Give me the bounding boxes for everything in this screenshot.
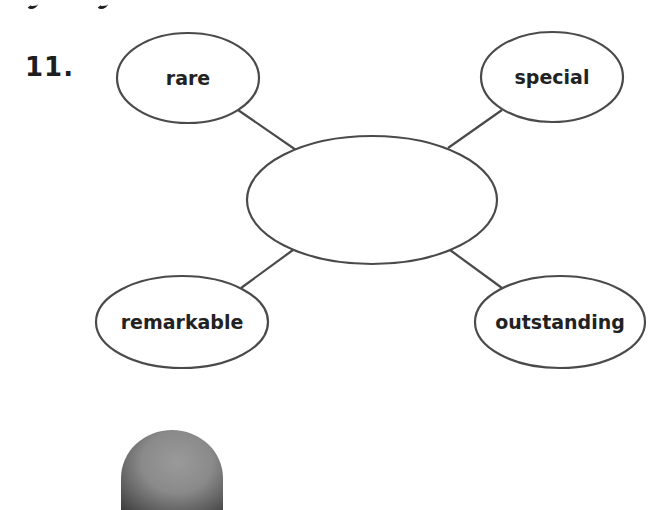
connector-line-bottom-left	[241, 250, 293, 288]
connector-line-top-right	[448, 110, 502, 148]
node-label-bottom-left: remarkable	[121, 311, 244, 333]
center-answer-field[interactable]	[272, 180, 476, 222]
connector-line-bottom-right	[450, 250, 502, 288]
node-label-top-left: rare	[166, 67, 210, 89]
connector-line-top-left	[238, 110, 296, 150]
node-label-bottom-right: outstanding	[495, 311, 625, 333]
node-label-top-right: special	[515, 66, 590, 88]
